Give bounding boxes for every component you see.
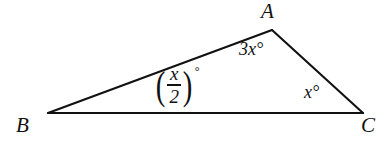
vertex-label-b: B: [16, 115, 29, 136]
fraction-x-over-2: x 2: [166, 64, 182, 106]
vertex-label-a: A: [261, 1, 274, 22]
fraction-left-paren: (: [156, 70, 166, 101]
fraction-numerator: x: [168, 64, 180, 83]
fraction-right-paren: ): [183, 70, 193, 101]
angle-label-at-a: 3x°: [239, 40, 263, 58]
geometry-figure-canvas: A B C 3x° x° ( x 2 ) °: [0, 0, 390, 145]
angle-label-at-c: x°: [304, 83, 319, 101]
vertex-label-c: C: [361, 115, 375, 136]
angle-label-at-b: ( x 2 ) °: [154, 64, 199, 106]
fraction-denominator: 2: [168, 87, 182, 106]
degree-symbol: °: [195, 65, 200, 77]
